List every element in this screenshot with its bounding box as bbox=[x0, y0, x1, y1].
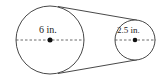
large-center-dot bbox=[48, 38, 53, 43]
pulley-diagram: 6 in. 2.5 in. bbox=[0, 0, 163, 79]
pulley-svg bbox=[0, 0, 163, 79]
small-center-dot bbox=[133, 38, 138, 43]
small-pulley-label: 2.5 in. bbox=[117, 25, 140, 35]
large-pulley-label: 6 in. bbox=[39, 24, 57, 35]
